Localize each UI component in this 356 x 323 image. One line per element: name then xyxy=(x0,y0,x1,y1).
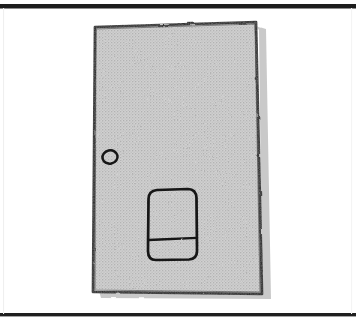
frame-bottom-rule xyxy=(0,313,356,316)
sketch-canvas: A hand-drawn pencil sketch showing a tal… xyxy=(0,0,356,323)
frame-top-rule xyxy=(0,4,356,9)
frame-left-rule xyxy=(3,8,4,314)
sketch-illustration xyxy=(0,0,356,323)
frame-right-rule xyxy=(351,8,352,314)
